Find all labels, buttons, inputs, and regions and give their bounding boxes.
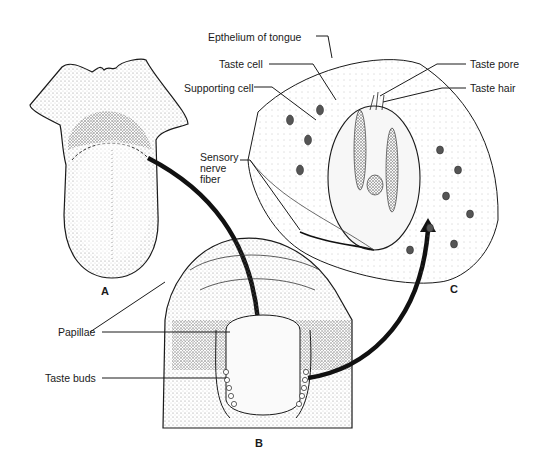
label-taste-hair: Taste hair: [470, 82, 516, 94]
panel-label-c: C: [450, 283, 458, 295]
label-papillae: Papillae: [58, 326, 95, 338]
panel-label-a: A: [101, 285, 109, 297]
panel-label-b: B: [255, 437, 263, 449]
label-taste-pore: Taste pore: [470, 58, 519, 70]
label-supporting-cell: Supporting cell: [184, 82, 253, 94]
label-taste-buds: Taste buds: [45, 372, 96, 384]
label-sensory-nerve-fiber-line3: fiber: [200, 173, 220, 185]
label-epithelium-of-tongue: Epthelium of tongue: [208, 31, 301, 43]
taste-anatomy-diagram: [0, 0, 539, 468]
papilla-cross-section: [163, 238, 352, 428]
label-taste-cell: Taste cell: [219, 58, 263, 70]
